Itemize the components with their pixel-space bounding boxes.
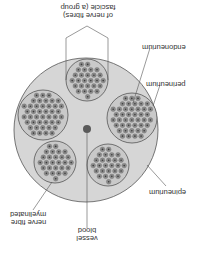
- axon-core: [49, 167, 51, 169]
- axon-core: [55, 156, 57, 158]
- axon-core: [52, 162, 54, 164]
- axon-core: [128, 103, 130, 105]
- label-fascicle-line2: of nerve fibres): [54, 11, 122, 19]
- axon-core: [45, 100, 47, 102]
- axon-core: [36, 105, 38, 107]
- axon-core: [78, 69, 80, 71]
- label-endoneurium-text: endoneurium: [142, 43, 186, 52]
- axon-core: [30, 127, 32, 129]
- axon-core: [134, 114, 136, 116]
- axon-core: [61, 156, 63, 158]
- axon-core: [58, 173, 60, 175]
- axon-core: [46, 162, 48, 164]
- axon-core: [99, 165, 101, 167]
- epineurium-leader-line: [147, 165, 166, 186]
- axon-core: [99, 85, 101, 87]
- label-epineurium: epineurium: [149, 188, 186, 196]
- label-fascicle: of nerve fibres) fascicle (a group: [54, 3, 122, 19]
- axon-core: [140, 135, 142, 137]
- nerve-cross-section-diagram: of nerve fibres) fascicle (a group endon…: [0, 0, 202, 253]
- axon-core: [147, 103, 149, 105]
- axon-core: [51, 122, 53, 124]
- axon-core: [125, 130, 127, 132]
- axon-core: [119, 119, 121, 121]
- label-perineurium: perineurium: [146, 80, 186, 88]
- axon-core: [48, 105, 50, 107]
- axon-core: [55, 146, 57, 148]
- axon-core: [119, 130, 121, 132]
- axon-core: [128, 125, 130, 127]
- axon-core: [120, 170, 122, 172]
- axon-core: [131, 130, 133, 132]
- axon-core: [122, 114, 124, 116]
- label-myelinated-fibre: nerve fibre myelinated: [10, 210, 46, 226]
- axon-core: [39, 132, 41, 134]
- axon-core: [87, 64, 89, 66]
- axon-core: [58, 122, 60, 124]
- axon-core: [111, 165, 113, 167]
- axon-core: [102, 159, 104, 161]
- axon-core: [117, 176, 119, 178]
- axon-core: [105, 165, 107, 167]
- axon-core: [84, 80, 86, 82]
- axon-core: [67, 156, 69, 158]
- axon-core: [30, 105, 32, 107]
- axon-core: [125, 98, 127, 100]
- axon-core: [45, 111, 47, 113]
- axon-core: [87, 85, 89, 87]
- axon-core: [49, 146, 51, 148]
- axon-core: [42, 116, 44, 118]
- axon-core: [42, 95, 44, 97]
- axon-core: [23, 105, 25, 107]
- axon-core: [33, 111, 35, 113]
- axon-core: [108, 149, 110, 151]
- axon-core: [105, 176, 107, 178]
- axon-core: [51, 100, 53, 102]
- axon-core: [84, 69, 86, 71]
- axon-core: [58, 111, 60, 113]
- axon-core: [128, 135, 130, 137]
- axon-core: [64, 162, 66, 164]
- axon-core: [99, 154, 101, 156]
- axon-core: [75, 74, 77, 76]
- label-blood-vessel-line1: blood: [72, 226, 102, 234]
- axon-core: [45, 122, 47, 124]
- axon-core: [137, 108, 139, 110]
- axon-core: [51, 111, 53, 113]
- label-blood-vessel: vessel blood: [72, 226, 102, 242]
- axon-core: [137, 98, 139, 100]
- axon-core: [90, 69, 92, 71]
- axon-core: [102, 80, 104, 82]
- axon-core: [143, 130, 145, 132]
- axon-core: [90, 91, 92, 93]
- axon-core: [78, 91, 80, 93]
- axon-core: [116, 125, 118, 127]
- label-myelinated-line2: nerve fibre: [10, 218, 46, 226]
- axon-core: [27, 122, 29, 124]
- axon-core: [42, 127, 44, 129]
- label-endoneurium: endoneurium: [142, 43, 186, 51]
- axon-core: [39, 122, 41, 124]
- axon-core: [75, 85, 77, 87]
- axon-core: [140, 125, 142, 127]
- axon-core: [61, 167, 63, 169]
- axon-core: [125, 108, 127, 110]
- axon-core: [116, 114, 118, 116]
- label-perineurium-text: perineurium: [146, 80, 186, 89]
- axon-core: [120, 159, 122, 161]
- axon-core: [46, 173, 48, 175]
- axon-core: [111, 176, 113, 178]
- axon-core: [131, 119, 133, 121]
- axon-core: [67, 167, 69, 169]
- axon-core: [33, 132, 35, 134]
- axon-core: [36, 116, 38, 118]
- axon-core: [131, 98, 133, 100]
- axon-core: [61, 116, 63, 118]
- axon-core: [140, 114, 142, 116]
- axon-core: [105, 154, 107, 156]
- axon-core: [125, 119, 127, 121]
- axon-core: [134, 125, 136, 127]
- axon-core: [45, 132, 47, 134]
- label-epineurium-text: epineurium: [149, 188, 186, 197]
- axon-core: [30, 116, 32, 118]
